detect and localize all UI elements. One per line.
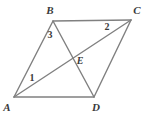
- vertex-label-A: A: [3, 102, 10, 113]
- angle-label-2: 2: [105, 22, 110, 32]
- parallelogram-figure: [0, 0, 144, 119]
- angle-label-1: 1: [30, 73, 35, 83]
- angle-label-3: 3: [48, 30, 53, 40]
- diagonal-BD: [53, 21, 94, 97]
- geometry-diagram: A B C D E 1 2 3: [0, 0, 144, 119]
- vertex-label-B: B: [46, 5, 53, 16]
- vertex-label-D: D: [92, 102, 100, 113]
- vertex-label-C: C: [133, 5, 140, 16]
- side-BC: [53, 20, 131, 21]
- point-label-E: E: [77, 56, 84, 66]
